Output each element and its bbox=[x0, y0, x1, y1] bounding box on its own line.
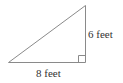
base-label: 8 feet bbox=[36, 67, 61, 79]
triangle-diagram: 8 feet 6 feet bbox=[0, 0, 123, 83]
hypotenuse-edge bbox=[9, 6, 86, 63]
right-angle-marker bbox=[79, 56, 86, 63]
height-label: 6 feet bbox=[88, 28, 113, 40]
